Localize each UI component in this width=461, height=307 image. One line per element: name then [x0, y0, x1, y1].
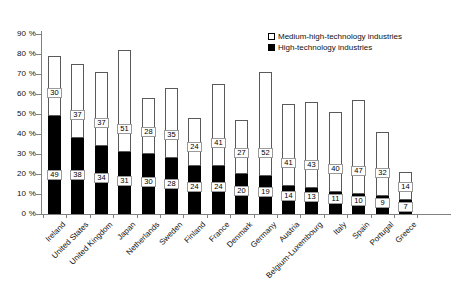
bar-greece: 147 — [399, 172, 412, 214]
y-axis-tick-label: 50 % — [0, 109, 36, 119]
bar-value-high-technology: 38 — [70, 170, 85, 180]
legend-label-high-technology: High-technology industries — [278, 42, 372, 53]
bar-spain: 4710 — [352, 100, 365, 214]
y-axis-line — [41, 31, 42, 215]
y-axis-tick-label: 40 % — [0, 129, 36, 139]
bar-value-medium-high-technology: 27 — [234, 148, 249, 158]
y-axis-tick-label: 0 % — [0, 209, 36, 219]
x-axis-label-italy: Italy — [332, 220, 349, 237]
bar-value-medium-high-technology: 41 — [281, 158, 296, 168]
x-axis-tick — [394, 214, 395, 218]
bar-value-medium-high-technology: 40 — [328, 164, 343, 174]
bar-segment-medium-high-technology — [165, 88, 178, 158]
x-axis-tick — [183, 214, 184, 218]
bar-belgium-luxembourg: 4313 — [305, 102, 318, 214]
bar-value-high-technology: 24 — [211, 182, 226, 192]
bar-segment-medium-high-technology — [212, 84, 225, 166]
bar-value-high-technology: 19 — [258, 187, 273, 197]
bar-value-high-technology: 20 — [234, 186, 249, 196]
y-axis-tick — [36, 154, 41, 155]
legend-swatch-white-square-icon — [268, 33, 275, 40]
bar-denmark: 2720 — [235, 120, 248, 214]
x-axis-tick — [371, 214, 372, 218]
x-axis-tick — [230, 214, 231, 218]
y-axis-tick-label: 20 % — [0, 169, 36, 179]
bar-value-high-technology: 7 — [398, 202, 413, 212]
legend-item-medium-high-technology: Medium-high-technology industries — [268, 31, 402, 42]
bar-segment-medium-high-technology — [376, 132, 389, 196]
bar-segment-medium-high-technology — [142, 98, 155, 154]
bar-value-medium-high-technology: 47 — [351, 166, 366, 176]
y-axis-tick — [36, 174, 41, 175]
bar-italy: 4011 — [329, 112, 342, 214]
x-axis-tick — [43, 214, 44, 218]
bar-value-medium-high-technology: 37 — [70, 110, 85, 120]
x-axis-tick — [277, 214, 278, 218]
x-axis-label-sweden: Sweden — [158, 220, 185, 247]
y-axis-tick — [36, 94, 41, 95]
bar-value-high-technology: 28 — [164, 179, 179, 189]
legend-item-high-technology: High-technology industries — [268, 42, 402, 53]
x-axis-line — [41, 214, 451, 215]
bar-segment-medium-high-technology — [95, 72, 108, 146]
y-axis-tick — [36, 34, 41, 35]
y-axis-tick-label: 90 % — [0, 29, 36, 39]
bar-value-medium-high-technology: 24 — [187, 142, 202, 152]
bar-value-high-technology: 30 — [141, 177, 156, 187]
bar-united-kingdom: 3734 — [95, 72, 108, 214]
x-axis-label-united-kingdom: United Kingdom — [68, 220, 115, 267]
bar-value-medium-high-technology: 51 — [117, 124, 132, 134]
bar-segment-medium-high-technology — [48, 56, 61, 116]
bar-value-medium-high-technology: 43 — [304, 160, 319, 170]
bar-value-high-technology: 9 — [375, 198, 390, 208]
x-axis-tick — [347, 214, 348, 218]
bar-value-high-technology: 13 — [304, 192, 319, 202]
bar-ireland: 3049 — [48, 56, 61, 214]
x-axis-label-portugal: Portugal — [368, 220, 395, 247]
chart-container: 0 %10 %20 %30 %40 %50 %60 %70 %80 %90 % … — [0, 0, 461, 307]
bar-value-high-technology: 34 — [94, 173, 109, 183]
bar-austria: 4114 — [282, 104, 295, 214]
y-axis-tick — [36, 214, 41, 215]
chart-legend: Medium-high-technology industries High-t… — [268, 31, 402, 53]
bar-segment-high-technology — [48, 116, 61, 214]
bar-segment-medium-high-technology — [71, 64, 84, 138]
bar-germany: 5219 — [259, 72, 272, 214]
bar-value-high-technology: 11 — [328, 194, 343, 204]
bar-france: 4124 — [212, 84, 225, 214]
bar-segment-medium-high-technology — [259, 72, 272, 176]
y-axis-tick — [36, 194, 41, 195]
bar-segment-medium-high-technology — [329, 112, 342, 192]
x-axis-tick — [113, 214, 114, 218]
x-axis-tick — [300, 214, 301, 218]
bar-finland: 2424 — [188, 118, 201, 214]
x-axis-tick — [324, 214, 325, 218]
y-axis-tick-label: 10 % — [0, 189, 36, 199]
bar-value-high-technology: 49 — [47, 170, 62, 180]
x-axis-tick — [66, 214, 67, 218]
bar-value-high-technology: 31 — [117, 176, 132, 186]
bar-value-medium-high-technology: 30 — [47, 88, 62, 98]
bar-value-high-technology: 14 — [281, 191, 296, 201]
bar-segment-medium-high-technology — [282, 104, 295, 186]
x-axis-tick — [160, 214, 161, 218]
y-axis-tick-label: 30 % — [0, 149, 36, 159]
bar-value-high-technology: 24 — [187, 182, 202, 192]
x-axis-tick — [417, 214, 418, 218]
x-axis-label-spain: Spain — [351, 220, 372, 241]
bar-value-medium-high-technology: 41 — [211, 138, 226, 148]
x-axis-tick — [90, 214, 91, 218]
bar-value-medium-high-technology: 28 — [141, 127, 156, 137]
bar-value-high-technology: 10 — [351, 196, 366, 206]
bar-value-medium-high-technology: 52 — [258, 148, 273, 158]
x-axis-label-finland: Finland — [182, 220, 207, 245]
bar-value-medium-high-technology: 35 — [164, 130, 179, 140]
legend-swatch-black-square-icon — [268, 44, 275, 51]
x-axis-tick — [137, 214, 138, 218]
y-axis-tick — [36, 114, 41, 115]
y-axis-tick-label: 80 % — [0, 49, 36, 59]
bar-value-medium-high-technology: 14 — [398, 182, 413, 192]
bar-portugal: 329 — [376, 132, 389, 214]
bar-segment-medium-high-technology — [352, 100, 365, 194]
x-axis-label-greece: Greece — [393, 220, 418, 245]
